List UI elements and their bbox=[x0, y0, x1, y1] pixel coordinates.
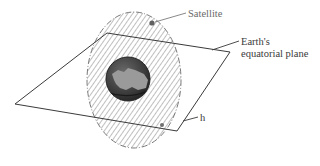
orbit-marker-icon bbox=[160, 123, 164, 127]
equatorial-plane-label: Earth's equatorial plane bbox=[241, 36, 308, 60]
altitude-label: h bbox=[200, 112, 205, 124]
satellite-icon bbox=[149, 20, 154, 25]
satellite-label: Satellite bbox=[188, 8, 222, 20]
equatorial-plane-label-line1: Earth's bbox=[241, 36, 308, 48]
equatorial-plane-label-line2: equatorial plane bbox=[241, 48, 308, 60]
earth-globe bbox=[106, 57, 150, 101]
plane-leader-line bbox=[212, 41, 239, 50]
polar-orbit-diagram bbox=[0, 0, 320, 166]
satellite-leader-line bbox=[155, 13, 186, 22]
